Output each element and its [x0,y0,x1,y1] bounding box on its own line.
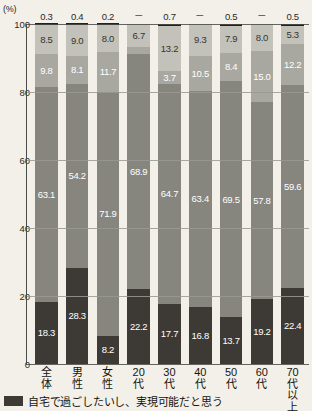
bar-top-value: － [124,8,153,22]
bar-segment-value: 10.5 [192,69,209,79]
x-axis-label-line: 30 [154,367,185,379]
bar-segment-value: 13.2 [161,44,178,54]
grid-line [26,92,309,93]
x-axis-label-line: 全 [31,367,62,379]
bar-segment: 15.0 [251,51,274,102]
x-axis-label-line: 代 [154,379,185,391]
x-axis-label-line: 性 [93,379,124,391]
grid-line [26,228,309,229]
bar-segment: 12.2 [281,44,304,85]
bar-segment-value: 3.7 [163,73,175,83]
bar-segment: 5.3 [281,26,304,44]
bar-segment-value: 63.4 [192,194,209,204]
bar-column[interactable]: 22.459.612.25.30.5 [281,24,304,364]
bar-segment-value: 9.0 [71,36,83,46]
bar-segment: 7.9 [220,26,243,53]
bar-top-value: － [186,8,215,22]
x-axis-label: 20代 [123,367,154,390]
bar-segment-value: 64.7 [161,189,178,199]
bar-column[interactable]: 13.769.58.47.90.5 [220,24,243,364]
bar-segment: 13.2 [158,26,181,71]
bar-segment-value: 57.8 [253,196,270,206]
bar-column[interactable]: 8.271.911.78.00.2 [97,24,120,364]
bar-segment-value: 71.9 [99,209,116,219]
grid-line [26,296,309,297]
bar-top-value: 0.5 [278,11,307,22]
bar-top-value: 0.3 [32,11,61,22]
bar-column[interactable]: 17.764.73.713.20.7 [158,24,181,364]
bar-segment: 11.7 [97,52,120,92]
bar-segment: 6.7 [127,24,150,47]
bar-segment-value: 5.3 [286,30,298,40]
bar-segment: 22.4 [281,288,304,364]
x-axis-label-line: 上 [277,402,308,411]
legend-label: 自宅で過ごしたいし、実現可能だと思う [28,393,222,409]
bar-segment-value: 18.3 [38,328,55,338]
bar-column[interactable]: 18.363.19.88.50.3 [35,24,58,364]
bar-segment: 17.7 [158,304,181,364]
y-axis-line [26,24,27,365]
x-axis-label-line: 男 [62,367,93,379]
bar-segment: 8.1 [66,56,89,84]
x-axis-label: 40代 [185,367,216,390]
bar-segment-value: 8.5 [40,35,52,45]
bar-segment-value: 16.8 [192,331,209,341]
bar-column[interactable]: 28.354.28.19.00.4 [66,24,89,364]
bar-column[interactable]: 16.863.410.59.3－ [189,24,212,364]
bar-segment-value: 54.2 [69,171,86,181]
x-axis-label: 全体 [31,367,62,390]
bar-top-value: － [248,8,277,22]
bar-segment-value: 8.1 [71,65,83,75]
bar-segment-value: 8.0 [256,33,268,43]
plot-area: 18.363.19.88.50.328.354.28.19.00.48.271.… [31,24,308,364]
bar-segment-value: 8.4 [225,62,237,72]
bar-top-value: 0.4 [63,11,92,22]
legend-swatch-icon [4,396,23,406]
bar-segment-value: 6.7 [133,31,145,41]
bar-segment-value: 13.7 [222,336,239,346]
bar-segment: 10.5 [189,56,212,92]
bar-segment: 19.2 [251,299,274,364]
bar-segment [127,47,150,54]
bar-segment: 8.4 [220,53,243,82]
bar-segment-value: 8.0 [102,34,114,44]
x-axis-label-line: 体 [31,379,62,391]
bar-segment-value: 11.7 [100,67,117,77]
grid-line [26,24,309,25]
stacked-bar-chart: (%) 100806040200 18.363.19.88.50.328.354… [0,0,312,411]
bar-segment: 71.9 [97,92,120,336]
x-axis-label: 30代 [154,367,185,390]
x-axis-label: 60代 [246,367,277,390]
bar-segment: 3.7 [158,71,181,84]
bar-segment: 9.8 [35,54,58,87]
x-axis-label-line: 代 [185,379,216,391]
grid-line [26,160,309,161]
bar-segment-value: 9.8 [40,66,52,76]
bar-segment: 9.0 [66,25,89,56]
x-axis-label: 50代 [216,367,247,390]
bar-segment: 57.8 [251,102,274,299]
x-axis-label: 男性 [62,367,93,390]
bar-column[interactable]: 22.268.96.7－ [127,24,150,364]
bar-top-value: 0.7 [155,11,184,22]
x-axis-label-line: 60 [246,367,277,379]
bar-segment-value: 17.7 [161,329,178,339]
bar-column[interactable]: 19.257.815.08.0－ [251,24,274,364]
bar-segment-value: 15.0 [253,72,270,82]
bar-segment: 13.7 [220,317,243,364]
bar-segment: 8.2 [97,336,120,364]
bar-segment: 68.9 [127,54,150,288]
bar-segment-value: 59.6 [284,182,301,192]
bar-segment-value: 22.2 [130,322,147,332]
bar-top-value: 0.2 [94,11,123,22]
bar-segment: 63.1 [35,87,58,302]
bar-segment-value: 7.9 [225,34,237,44]
x-axis-label: 女性 [93,367,124,390]
bar-segment: 54.2 [66,84,89,268]
x-axis-label-line: 以 [277,390,308,402]
x-axis-label-line: 女 [93,367,124,379]
x-axis-label-line: 代 [216,379,247,391]
bar-segment: 63.4 [189,91,212,307]
bar-segment: 16.8 [189,307,212,364]
x-axis-label-line: 代 [246,379,277,391]
